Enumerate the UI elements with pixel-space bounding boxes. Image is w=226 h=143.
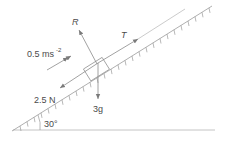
tension-label: T [121,30,128,40]
tension-force-arrow [98,39,138,63]
friction-label: 2.5 N [34,95,56,105]
acceleration-label: 0.5 ms [27,49,55,59]
friction-force-arrow [60,63,98,88]
force-diagram: R T 0.5 ms -2 2.5 N 3g 30° [0,0,226,143]
angle-label: 30° [44,119,58,129]
acceleration-arrow-double [64,58,68,61]
weight-label: 3g [93,104,103,114]
block [83,57,109,81]
angle-arc [38,115,40,130]
incline-surface [12,6,212,131]
reaction-label: R [72,17,79,27]
tension-line-extension [138,9,185,39]
acceleration-exponent: -2 [56,47,62,53]
reaction-force-arrow [79,30,97,64]
